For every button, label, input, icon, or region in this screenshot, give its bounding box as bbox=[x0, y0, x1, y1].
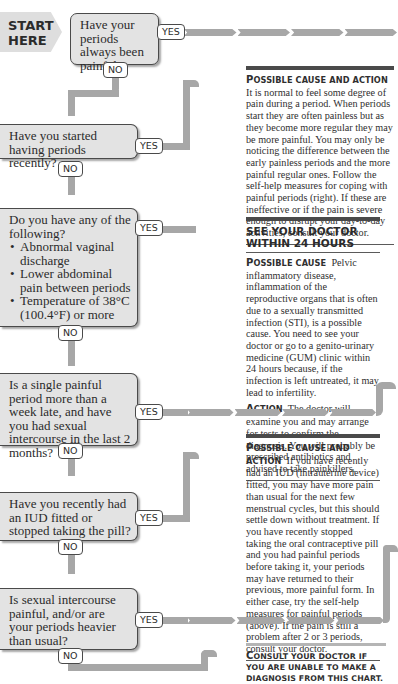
question-box-2: Have you started having periods recently… bbox=[0, 124, 138, 159]
panel-body: POSSIBLE CAUSE AND ACTION It is normal t… bbox=[246, 74, 394, 239]
q2-no-connector bbox=[68, 175, 75, 195]
q1-yes-arrow bbox=[184, 29, 398, 36]
start-line2: HERE bbox=[8, 33, 62, 48]
question-text: Is sexual intercourse painful, and/or ar… bbox=[9, 592, 116, 648]
q6-no-hook bbox=[201, 650, 217, 657]
q6-no-bottom bbox=[68, 664, 208, 671]
question-text: Do you have any of the following? bbox=[9, 213, 131, 240]
symptom-item: Abnormal vaginal discharge bbox=[9, 240, 131, 267]
q3-no-label: NO bbox=[58, 325, 83, 341]
panel-top-rule bbox=[246, 434, 380, 438]
q4-yes-label: YES bbox=[135, 404, 163, 420]
start-here-marker: START HERE bbox=[0, 12, 62, 52]
q5-no-label: NO bbox=[58, 539, 83, 555]
start-line1: START bbox=[8, 18, 62, 33]
q1-no-jog bbox=[68, 90, 119, 97]
q1-yes-label: YES bbox=[157, 24, 185, 40]
symptom-item: Temperature of 38°C (100.4°F) or more bbox=[9, 294, 131, 321]
q1-no-down bbox=[68, 90, 75, 116]
panel-possible-cause-iud-pill: POSSIBLE CAUSE AND ACTION If you have re… bbox=[246, 434, 380, 661]
consult-doctor-note: CONSULT YOUR DOCTOR IF YOU ARE UNABLE TO… bbox=[246, 650, 386, 684]
q1-no-label: NO bbox=[103, 62, 128, 78]
q2-yes-label: YES bbox=[135, 138, 163, 154]
q3-yes-connector bbox=[158, 226, 196, 233]
question-box-4: Is a single painful period more than a w… bbox=[0, 373, 138, 446]
question-text: Have you started having periods recently… bbox=[9, 128, 97, 170]
q4-yes-arrow bbox=[187, 409, 377, 416]
q6-no-label: NO bbox=[58, 648, 83, 664]
right-vertical-hook bbox=[383, 545, 398, 552]
possible-cause-section: POSSIBLE CAUSE Pelvic inflammatory disea… bbox=[246, 257, 380, 398]
panel-text: It is normal to feel some degree of pain… bbox=[246, 87, 393, 238]
panel-top-rule bbox=[246, 643, 386, 646]
q3-no-connector bbox=[68, 341, 75, 366]
cause-label: POSSIBLE CAUSE bbox=[246, 258, 326, 268]
panel-heading: SEE YOUR DOCTOR WITHIN 24 HOURS bbox=[246, 225, 380, 253]
q2-yes-hook bbox=[183, 80, 199, 87]
cause-text: Pelvic inflammatory disease, inflammatio… bbox=[246, 257, 379, 398]
q4-no-label: NO bbox=[58, 443, 83, 459]
question-box-6: Is sexual intercourse painful, and/or ar… bbox=[0, 588, 138, 650]
q3-yes-label: YES bbox=[135, 220, 163, 236]
symptom-item: Lower abdominal pain between periods bbox=[9, 267, 131, 294]
panel-top-rule bbox=[246, 217, 380, 221]
question-box-5: Have you recently had an IUD fitted or s… bbox=[0, 492, 138, 541]
panel-top-rule bbox=[246, 66, 394, 70]
panel-label: POSSIBLE CAUSE AND ACTION bbox=[246, 75, 388, 85]
panel-text: If you have recently had an IUD (intraut… bbox=[246, 455, 379, 654]
q5-yes-up bbox=[183, 452, 190, 522]
q5-yes-label: YES bbox=[135, 510, 163, 526]
q2-no-label: NO bbox=[58, 161, 83, 177]
q4-yes-curve-up bbox=[376, 385, 383, 416]
q6-yes-label: YES bbox=[135, 612, 163, 628]
q4-yes-curve-hook bbox=[376, 382, 396, 389]
question-box-3: Do you have any of the following? Abnorm… bbox=[0, 208, 138, 327]
q6-yes-arrow bbox=[187, 617, 385, 624]
panel-consult-doctor: CONSULT YOUR DOCTOR IF YOU ARE UNABLE TO… bbox=[246, 643, 386, 684]
question-box-1: Have your periods always been painful? bbox=[70, 13, 159, 65]
question-text: Have you recently had an IUD fitted or s… bbox=[9, 496, 131, 538]
q2-yes-up bbox=[183, 80, 190, 150]
q5-yes-hook bbox=[183, 452, 199, 459]
symptom-list: Abnormal vaginal discharge Lower abdomin… bbox=[9, 240, 131, 321]
right-vertical-connector bbox=[383, 545, 390, 623]
